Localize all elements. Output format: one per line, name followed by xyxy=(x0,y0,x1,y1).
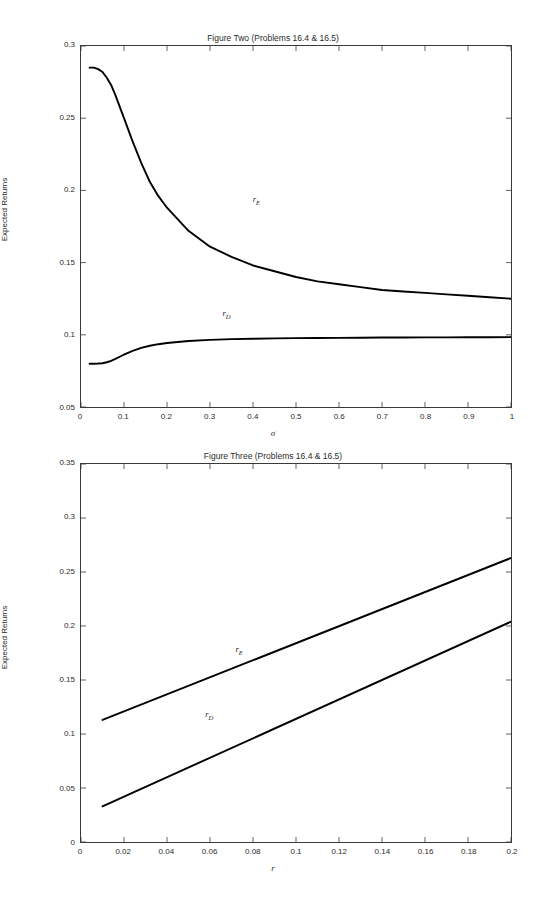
y-tick-label: 0.15 xyxy=(45,675,75,684)
figure-three-x-axis-label: r xyxy=(0,863,546,873)
figure-three-y-axis-label: Expected Returns xyxy=(0,606,9,670)
x-tick-label: 0.02 xyxy=(106,847,140,856)
figure-two: Figure Two (Problems 16.4 & 16.5) Expect… xyxy=(0,30,546,445)
figure-three-canvas xyxy=(81,464,511,842)
x-tick-label: 0.5 xyxy=(279,412,313,421)
figure-two-y-axis-label: Expected Returns xyxy=(0,178,9,242)
curve-label-rE: rE xyxy=(253,194,260,206)
x-tick-label: 0.3 xyxy=(193,412,227,421)
curve-label-rD: rD xyxy=(223,308,231,320)
page-header xyxy=(0,0,546,10)
y-tick-label: 0.2 xyxy=(45,185,75,194)
x-tick-label: 0.18 xyxy=(452,847,486,856)
x-tick-label: 0.7 xyxy=(365,412,399,421)
x-tick-label: 0.16 xyxy=(409,847,443,856)
figure-two-x-axis-label: σ xyxy=(0,428,546,438)
x-tick-label: 0.14 xyxy=(365,847,399,856)
figure-two-canvas xyxy=(81,46,511,407)
y-tick-label: 0.2 xyxy=(45,621,75,630)
y-tick-label: 0.3 xyxy=(45,512,75,521)
x-tick-label: 0.2 xyxy=(495,847,529,856)
y-tick-label: 0.35 xyxy=(45,458,75,467)
x-tick-label: 0.12 xyxy=(322,847,356,856)
x-tick-label: 0.06 xyxy=(193,847,227,856)
figure-three-title: Figure Three (Problems 16.4 & 16.5) xyxy=(0,451,546,461)
x-tick-label: 0.6 xyxy=(322,412,356,421)
x-tick-label: 0.4 xyxy=(236,412,270,421)
x-tick-label: 0.1 xyxy=(106,412,140,421)
figure-two-title: Figure Two (Problems 16.4 & 16.5) xyxy=(0,33,546,43)
figure-three: Figure Three (Problems 16.4 & 16.5) Expe… xyxy=(0,448,546,888)
y-tick-label: 0.25 xyxy=(45,567,75,576)
series-line-rD xyxy=(103,622,512,807)
series-line-rE xyxy=(103,558,512,720)
x-tick-label: 0.9 xyxy=(452,412,486,421)
y-tick-label: 0.15 xyxy=(45,258,75,267)
figure-three-plot-area xyxy=(80,463,512,843)
x-tick-label: 0.08 xyxy=(236,847,270,856)
y-tick-label: 0.1 xyxy=(45,729,75,738)
y-tick-label: 0.05 xyxy=(45,784,75,793)
x-tick-label: 0.1 xyxy=(279,847,313,856)
y-tick-label: 0.3 xyxy=(45,40,75,49)
x-tick-label: 1 xyxy=(495,412,529,421)
x-tick-label: 0.04 xyxy=(149,847,183,856)
curve-label-rE: rE xyxy=(236,644,243,656)
x-tick-label: 0 xyxy=(63,847,97,856)
x-tick-label: 0.8 xyxy=(409,412,443,421)
series-line-rD xyxy=(90,337,511,364)
y-tick-label: 0.05 xyxy=(45,403,75,412)
y-tick-label: 0.1 xyxy=(45,330,75,339)
curve-label-rD: rD xyxy=(205,709,213,721)
x-tick-label: 0.2 xyxy=(149,412,183,421)
series-line-rE xyxy=(90,68,511,299)
y-tick-label: 0 xyxy=(45,838,75,847)
x-tick-label: 0 xyxy=(63,412,97,421)
figure-two-plot-area xyxy=(80,45,512,408)
y-tick-label: 0.25 xyxy=(45,113,75,122)
